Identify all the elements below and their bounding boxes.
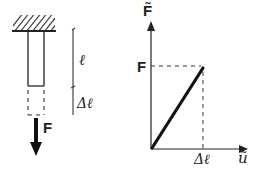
x-tick-label: Δℓ — [194, 152, 210, 166]
rod-elongation-dashed — [28, 90, 44, 115]
y-axis — [147, 21, 155, 149]
fixed-support — [8, 12, 66, 32]
rod — [28, 31, 44, 86]
diagram-canvas — [0, 0, 267, 176]
x-axis-label: ũ — [238, 151, 248, 166]
y-tick-label: F — [137, 59, 146, 74]
y-axis-label: F̃ — [143, 3, 152, 18]
length-bracket — [71, 28, 75, 115]
elongation-label: Δℓ — [77, 96, 93, 110]
length-label: ℓ — [79, 53, 85, 68]
force-displacement-line — [152, 68, 203, 148]
force-label: F — [43, 120, 52, 135]
force-arrow — [30, 118, 42, 156]
